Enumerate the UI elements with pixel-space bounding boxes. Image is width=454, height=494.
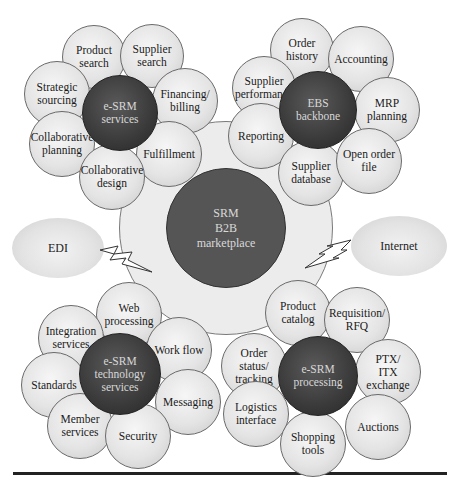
petal-label: Collaborative planning	[31, 131, 94, 157]
petal-label: Messaging	[163, 396, 213, 409]
petal-label: Collaborative design	[81, 164, 144, 190]
marketplace-label: SRM B2B marketplace	[197, 206, 256, 251]
petal-label: Standards	[31, 379, 76, 392]
internet-cloud: Internet	[351, 216, 447, 276]
petal-label: Fulfillment	[143, 148, 195, 161]
hub-esrm-technology-services: e-SRM technology services	[79, 333, 161, 415]
petal-label: Reporting	[238, 130, 284, 143]
petal-label: Security	[119, 430, 157, 443]
petal-label: Product search	[76, 44, 112, 70]
petal-node: Shopping tools	[280, 411, 346, 477]
petal-label: Work flow	[154, 344, 203, 357]
petal-node: Collaborative design	[79, 144, 145, 210]
bottom-rule	[13, 472, 447, 475]
petal-label: Strategic sourcing	[37, 81, 78, 107]
petal-node: Auctions	[345, 394, 411, 460]
petal-label: Order history	[286, 37, 318, 63]
petal-label: Shopping tools	[291, 431, 335, 457]
lightning-bolt-icon	[303, 238, 353, 270]
srm-b2b-marketplace-hub: SRM B2B marketplace	[166, 168, 286, 288]
petal-label: Logistics interface	[235, 401, 277, 427]
petal-label: MRP planning	[367, 97, 407, 123]
srm-diagram: SRM B2B marketplace EDI Internet Product…	[0, 0, 454, 494]
petal-label: Supplier database	[291, 160, 331, 186]
hub-label: e-SRM processing	[293, 363, 342, 389]
hub-label: e-SRM technology services	[94, 355, 145, 394]
petal-node: Supplier database	[278, 140, 344, 206]
petal-label: Financing/ billing	[160, 88, 209, 114]
hub-label: e-SRM services	[101, 100, 138, 126]
petal-label: Open order file	[343, 148, 395, 174]
petal-label: Accounting	[334, 53, 388, 66]
petal-label: Product catalog	[280, 300, 316, 326]
petal-label: Order status/ tracking	[235, 347, 273, 386]
petal-label: Member services	[61, 413, 100, 439]
petal-label: PTX/ ITX exchange	[366, 353, 409, 392]
edi-label: EDI	[48, 241, 68, 256]
lightning-bolt-icon	[98, 244, 154, 274]
hub-label: EBS backbone	[296, 97, 340, 123]
petal-label: Auctions	[357, 421, 399, 434]
petal-node: Open order file	[336, 128, 402, 194]
petal-label: Supplier search	[133, 43, 172, 69]
edi-cloud: EDI	[12, 218, 104, 278]
internet-label: Internet	[380, 239, 417, 254]
hub-ebs-backbone: EBS backbone	[279, 71, 357, 149]
hub-esrm-services: e-SRM services	[82, 75, 158, 151]
petal-node: Logistics interface	[223, 381, 289, 447]
hub-esrm-processing: e-SRM processing	[278, 336, 358, 416]
petal-label: Requisition/ RFQ	[329, 307, 385, 333]
petal-label: Web processing	[104, 302, 153, 328]
